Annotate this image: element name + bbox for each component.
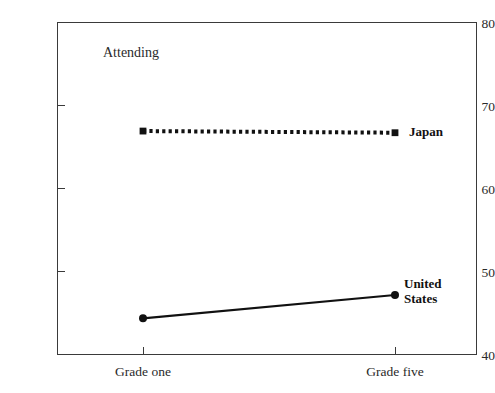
y-tick-mark-70 — [57, 105, 65, 106]
y-tick-label-60: 60 — [465, 183, 495, 197]
y-tick-label-50: 50 — [465, 266, 495, 280]
panel-label-attending: Attending — [103, 45, 159, 61]
y-tick-label-70: 70 — [465, 100, 495, 114]
series-end-label-united-states: United States — [404, 277, 442, 306]
x-tick-label-grade-five: Grade five — [325, 364, 465, 380]
y-tick-mark-50 — [57, 271, 65, 272]
y-tick-label-40: 40 — [465, 349, 495, 363]
series-end-label-japan: Japan — [409, 125, 443, 140]
y-tick-label-80: 80 — [465, 17, 495, 31]
x-tick-mark-grade-five — [395, 347, 396, 355]
x-tick-mark-grade-one — [143, 347, 144, 355]
y-tick-mark-60 — [57, 188, 65, 189]
chart-figure: Attending Percentage of total time 80 70… — [0, 0, 495, 393]
x-tick-label-grade-one: Grade one — [73, 364, 213, 380]
